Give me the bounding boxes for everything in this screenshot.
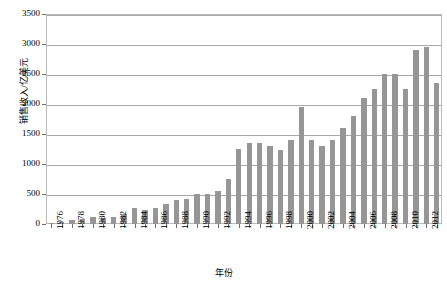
bar [111, 217, 116, 224]
bar [340, 128, 345, 224]
bar [424, 47, 429, 224]
bar [257, 143, 262, 224]
x-axis-tick-label: 1986 [159, 211, 169, 229]
x-axis-tick-mark [322, 224, 323, 228]
y-axis-tick-label: 0 [4, 218, 40, 228]
bar [413, 50, 418, 224]
x-axis-tick-label: 2000 [305, 211, 315, 229]
x-axis-tick-label: 1980 [97, 211, 107, 229]
bar [215, 191, 220, 224]
x-axis-tick-mark [364, 224, 365, 228]
bar [382, 74, 387, 224]
bar [90, 217, 95, 224]
x-axis-tick-mark [51, 224, 52, 228]
x-axis-tick-mark [176, 224, 177, 228]
y-axis-tick-label: 1000 [4, 158, 40, 168]
x-axis-tick-label: 1996 [264, 211, 274, 229]
bar [372, 89, 377, 224]
bar [319, 146, 324, 224]
x-axis-tick-label: 2006 [368, 211, 378, 229]
x-axis-tick-label: 2002 [326, 211, 336, 229]
bar [174, 200, 179, 224]
x-axis-tick-label: 2008 [389, 211, 399, 229]
x-axis-tick-mark [260, 224, 261, 228]
bars-layer [46, 14, 442, 224]
bar [392, 74, 397, 224]
bar [361, 98, 366, 224]
x-axis-tick-mark [301, 224, 302, 228]
x-axis-tick-label: 1994 [243, 211, 253, 229]
y-axis-tick-mark [42, 224, 46, 225]
x-axis-tick-label: 1982 [118, 211, 128, 229]
x-axis-tick-label: 1978 [76, 211, 86, 229]
x-axis-tick-label: 1988 [180, 211, 190, 229]
bar [434, 83, 439, 224]
x-axis-title: 年份 [0, 266, 447, 279]
x-axis-tick-mark [280, 224, 281, 228]
x-axis-tick-mark [406, 224, 407, 228]
x-axis-tick-label: 2004 [347, 211, 357, 229]
bar [278, 150, 283, 224]
x-axis-tick-label: 1992 [222, 211, 232, 229]
y-axis-tick-label: 1500 [4, 128, 40, 138]
x-axis-tick-label: 1998 [284, 211, 294, 229]
y-axis-tick-label: 500 [4, 188, 40, 198]
bar [194, 194, 199, 224]
y-axis-tick-label: 2500 [4, 68, 40, 78]
x-axis-tick-label: 1976 [55, 211, 65, 229]
x-axis-tick-label: 2010 [410, 211, 420, 229]
x-axis-tick-mark [343, 224, 344, 228]
x-axis-tick-mark [239, 224, 240, 228]
x-axis-tick-label: 2012 [430, 211, 440, 229]
bar [132, 208, 137, 224]
bar [153, 208, 158, 224]
x-axis-tick-mark [155, 224, 156, 228]
x-axis-tick-label: 1990 [201, 211, 211, 229]
bar [299, 107, 304, 224]
x-axis-tick-mark [218, 224, 219, 228]
bar [236, 149, 241, 224]
y-axis-tick-label: 2000 [4, 98, 40, 108]
x-axis-tick-mark [93, 224, 94, 228]
x-axis-tick-label: 1984 [139, 211, 149, 229]
bar [351, 116, 356, 224]
x-axis-tick-mark [114, 224, 115, 228]
y-axis-tick-label: 3000 [4, 38, 40, 48]
y-axis-tick-label: 3500 [4, 8, 40, 18]
bar-chart: 销售收入/亿美元 0500100015002000250030003500 19… [0, 0, 447, 287]
x-axis-tick-mark [197, 224, 198, 228]
bar [403, 89, 408, 224]
x-axis-tick-mark [135, 224, 136, 228]
x-axis-tick-mark [426, 224, 427, 228]
x-axis-tick-mark [385, 224, 386, 228]
x-axis-tick-mark [72, 224, 73, 228]
